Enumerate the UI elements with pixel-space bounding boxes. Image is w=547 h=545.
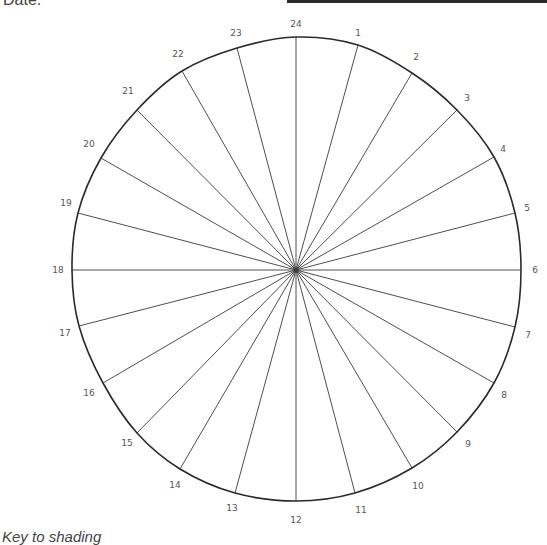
- hour-label: 9: [465, 439, 471, 449]
- hour-spoke: [78, 213, 296, 270]
- hour-label: 22: [172, 49, 183, 59]
- hour-label: 19: [60, 198, 72, 208]
- hour-spoke: [180, 270, 296, 469]
- hour-label: 21: [122, 86, 133, 96]
- hour-spoke: [101, 158, 296, 270]
- hour-spoke: [296, 213, 515, 270]
- hour-label: 16: [83, 388, 95, 398]
- hour-label: 17: [59, 328, 70, 338]
- hour-label: 1: [355, 28, 361, 38]
- hour-label: 12: [290, 515, 301, 525]
- hour-label: 11: [355, 505, 366, 515]
- hour-spoke: [235, 270, 296, 493]
- hour-label: 3: [464, 93, 470, 103]
- hour-spoke: [296, 157, 494, 270]
- hour-label: 13: [226, 503, 237, 513]
- hour-label: 5: [524, 203, 530, 213]
- hour-spoke: [296, 270, 515, 327]
- hour-label: 18: [52, 265, 64, 275]
- key-to-shading-label: Key to shading: [2, 528, 101, 545]
- hour-spoke: [296, 45, 358, 270]
- hour-spoke: [296, 270, 494, 383]
- hour-label: 4: [500, 144, 506, 154]
- hour-spoke: [137, 270, 296, 433]
- hour-label: 24: [290, 19, 302, 29]
- hour-label: 14: [169, 480, 181, 490]
- hour-label: 10: [412, 481, 424, 491]
- hour-spoke: [296, 270, 355, 493]
- hour-spoke: [237, 48, 296, 270]
- hour-label: 23: [230, 28, 241, 38]
- hour-spoke: [103, 270, 296, 383]
- hour-label: 8: [501, 390, 507, 400]
- hour-spoke: [137, 110, 296, 270]
- hour-spoke: [79, 270, 296, 326]
- hour-label: 20: [83, 139, 95, 149]
- hour-spoke: [182, 71, 296, 270]
- hour-label: 15: [121, 438, 132, 448]
- hour-label: 6: [532, 265, 538, 275]
- hour-label: 7: [525, 330, 531, 340]
- hour-label: 2: [413, 52, 419, 62]
